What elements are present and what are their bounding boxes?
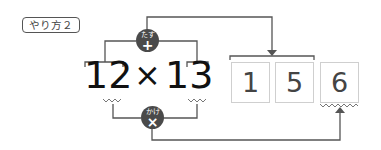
left-operand: 12 — [84, 56, 132, 94]
multiply-operation-badge: かけ × — [141, 106, 164, 129]
answer-digit-box: 5 — [275, 62, 314, 103]
plus-icon: + — [136, 39, 159, 51]
answer-digit-box: 1 — [231, 62, 270, 103]
times-icon: × — [141, 116, 164, 128]
answer-digit-box: 6 — [320, 62, 359, 103]
multiply-operator: × — [134, 56, 161, 94]
add-operation-badge: たす + — [136, 29, 159, 52]
right-operand: 13 — [165, 56, 213, 94]
